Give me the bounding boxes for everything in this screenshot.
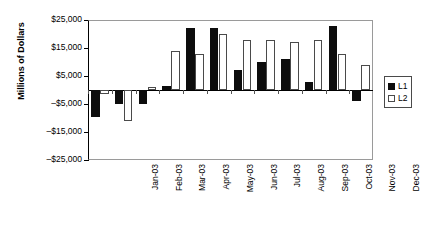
bar-l2-nov-03 <box>338 54 347 90</box>
y-axis-tick-label: –$15,000 <box>22 126 82 136</box>
x-axis-tick-mark <box>183 90 184 94</box>
bar-l1-mar-03 <box>139 90 148 104</box>
bar-l2-apr-03 <box>171 51 180 90</box>
legend-item: L2 <box>388 92 407 104</box>
bar-l2-jun-03 <box>219 34 228 90</box>
bar-l1-jul-03 <box>234 70 243 90</box>
legend-item: L1 <box>388 80 407 92</box>
x-axis-tick-label: Jun-03 <box>269 164 279 218</box>
bar-l1-jan-03 <box>91 90 100 117</box>
bar-l1-aug-03 <box>257 62 266 90</box>
bar-chart: Millions of Dollars $25,000$15,000$5,000… <box>0 0 448 225</box>
bar-l2-mar-03 <box>148 87 157 90</box>
bar-l1-may-03 <box>186 28 195 90</box>
bar-l1-apr-03 <box>162 86 171 90</box>
chart-legend: L1L2 <box>384 76 412 108</box>
x-axis-tick-mark <box>207 90 208 94</box>
x-axis-tick-label: Mar-03 <box>197 164 207 218</box>
x-axis-tick-label: Aug-03 <box>316 164 326 218</box>
legend-swatch-icon <box>388 95 395 102</box>
x-axis-tick-label: Feb-03 <box>174 164 184 218</box>
x-axis-tick-mark <box>112 90 113 94</box>
y-axis-tick-label: $15,000 <box>22 42 82 52</box>
x-axis-tick-mark <box>349 90 350 94</box>
bar-l1-jun-03 <box>210 28 219 90</box>
x-axis-tick-mark <box>88 90 89 94</box>
bar-l2-jul-03 <box>243 40 252 90</box>
x-axis-tick-label: Jan-03 <box>150 164 160 218</box>
x-axis-tick-label: Apr-03 <box>221 164 231 218</box>
bar-l1-sep-03 <box>281 59 290 90</box>
bar-l2-jan-03 <box>100 90 109 94</box>
x-axis-tick-label: Jul-03 <box>292 164 302 218</box>
x-axis-tick-label: Oct-03 <box>364 164 374 218</box>
x-axis-tick-label: May-03 <box>245 164 255 218</box>
bar-l1-nov-03 <box>329 26 338 90</box>
bar-l2-sep-03 <box>290 42 299 90</box>
x-axis-tick-label: Dec-03 <box>411 164 421 218</box>
y-axis-tick-label: $5,000 <box>22 70 82 80</box>
bar-l2-may-03 <box>195 54 204 90</box>
legend-swatch-icon <box>388 83 395 90</box>
x-axis-tick-mark <box>326 90 327 94</box>
bar-l1-oct-03 <box>305 82 314 90</box>
legend-label: L1 <box>398 82 407 91</box>
x-axis-tick-mark <box>136 90 137 94</box>
x-axis-tick-label: Nov-03 <box>387 164 397 218</box>
bar-l2-aug-03 <box>266 40 275 90</box>
bar-l2-oct-03 <box>314 40 323 90</box>
x-axis-tick-mark <box>278 90 279 94</box>
y-axis-tick-label: –$5,000 <box>22 98 82 108</box>
y-axis-tick-label: $25,000 <box>22 14 82 24</box>
bar-l1-dec-03 <box>352 90 361 101</box>
bar-l1-feb-03 <box>115 90 124 104</box>
y-axis-tick-mark <box>84 160 89 161</box>
x-axis-tick-mark <box>231 90 232 94</box>
x-axis-tick-label: Sep-03 <box>340 164 350 218</box>
y-axis-tick-label: –$25,000 <box>22 154 82 164</box>
bar-l2-feb-03 <box>124 90 133 121</box>
x-axis-tick-mark <box>159 90 160 94</box>
bar-l2-dec-03 <box>361 65 370 90</box>
legend-label: L2 <box>398 94 407 103</box>
x-axis-tick-mark <box>254 90 255 94</box>
x-axis-tick-mark <box>302 90 303 94</box>
